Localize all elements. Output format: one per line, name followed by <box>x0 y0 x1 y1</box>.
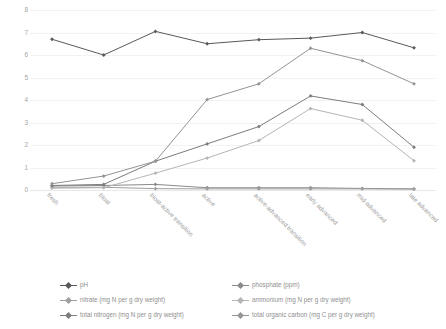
data-point-marker <box>205 142 209 146</box>
x-axis-tick-label: active <box>201 192 217 208</box>
chart-legend: pHphosphate (ppm)nitrate (mg N per g dry… <box>60 278 446 326</box>
data-point-marker <box>360 31 364 35</box>
legend-label: total nitrogen (mg N per g dry weight) <box>80 312 184 318</box>
data-point-marker <box>154 171 158 175</box>
series-total <box>50 46 416 185</box>
data-point-marker <box>102 53 106 57</box>
y-axis-tick-label: 5 <box>4 74 28 81</box>
x-axis-tick-label: fresh <box>46 192 60 206</box>
y-axis-tick-label: 4 <box>4 97 28 104</box>
y-axis-tick-label: 8 <box>4 7 28 14</box>
data-point-marker <box>102 186 106 190</box>
series-total <box>50 94 416 187</box>
legend-swatch-icon <box>60 312 77 319</box>
y-axis-tick-label: 7 <box>4 29 28 36</box>
legend-item[interactable]: ammonium (mg N per g dry weight) <box>232 293 446 308</box>
series-line <box>52 109 414 189</box>
legend-swatch-icon <box>232 282 249 289</box>
legend-item[interactable]: total organic carbon (mg C per g dry wei… <box>232 308 446 323</box>
legend-swatch-icon <box>60 297 77 304</box>
plot-area <box>30 10 436 190</box>
data-point-marker <box>205 42 209 46</box>
data-point-marker <box>154 182 158 186</box>
legend-item[interactable]: total nitrogen (mg N per g dry weight) <box>60 308 228 323</box>
legend-label: pH <box>80 282 88 288</box>
series-ph <box>50 29 416 56</box>
data-point-marker <box>412 82 416 86</box>
y-axis: 012345678 <box>0 10 28 190</box>
data-point-marker <box>102 174 106 178</box>
y-axis-tick-label: 3 <box>4 119 28 126</box>
line-chart: 012345678 freshbloatbloat-active transit… <box>0 0 446 329</box>
data-point-marker <box>257 38 261 42</box>
legend-item[interactable]: phosphate (ppm) <box>232 278 446 293</box>
x-axis-tick-label: mid-advanced <box>356 192 388 224</box>
data-point-marker <box>154 187 158 191</box>
legend-swatch-icon <box>232 297 249 304</box>
legend-swatch-icon <box>60 282 77 289</box>
legend-label: ammonium (mg N per g dry weight) <box>252 297 351 303</box>
y-axis-tick-label: 2 <box>4 142 28 149</box>
data-point-marker <box>360 59 364 63</box>
x-axis-tick-label: bloat-active transition <box>149 192 195 238</box>
y-axis-tick-label: 0 <box>4 187 28 194</box>
x-axis-line <box>30 190 436 191</box>
series-container <box>30 10 436 190</box>
series-line <box>52 48 414 183</box>
legend-item[interactable]: nitrate (mg N per g dry weight) <box>60 293 228 308</box>
x-axis-tick-label: late advanced <box>408 192 440 224</box>
data-point-marker <box>50 37 54 41</box>
legend-label: phosphate (ppm) <box>252 282 300 288</box>
legend-item[interactable]: pH <box>60 278 228 293</box>
legend-label: nitrate (mg N per g dry weight) <box>80 297 165 303</box>
y-axis-tick-label: 6 <box>4 52 28 59</box>
data-point-marker <box>154 29 158 33</box>
legend-label: total organic carbon (mg C per g dry wei… <box>252 312 375 318</box>
data-point-marker <box>412 46 416 50</box>
y-axis-tick-label: 1 <box>4 164 28 171</box>
series-line <box>52 96 414 186</box>
x-axis-tick-label: bloat <box>97 192 111 206</box>
series-ammonium <box>50 107 416 190</box>
series-line <box>52 31 414 55</box>
data-point-marker <box>205 156 209 160</box>
data-point-marker <box>309 36 313 40</box>
x-axis-tick-label: active-advanced transition <box>252 192 307 247</box>
x-axis-tick-label: early advanced <box>304 192 338 226</box>
legend-swatch-icon <box>232 312 249 319</box>
x-axis-labels: freshbloatbloat-active transitionactivea… <box>30 192 436 262</box>
